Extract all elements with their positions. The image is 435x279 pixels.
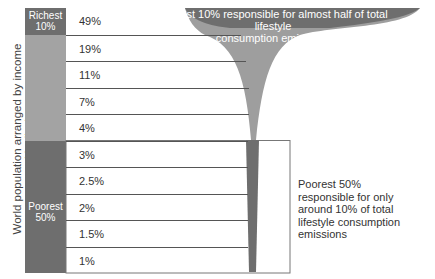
decile-row: 3% [66,141,248,168]
decile-row: 1% [66,247,248,274]
decile-row: 4% [66,114,249,141]
decile-row: 1.5% [66,220,248,247]
poorest-annotation: Poorest 50% responsible for only around … [298,178,418,241]
deciles-table: 49% 19% 11% 7% 4% 3% 2.5% 2% 1.5% 1% [66,8,296,273]
richest-annotation: Richest 10% responsible for almost half … [153,8,393,44]
decile-row: 11% [66,61,246,88]
decile-row: 2.5% [66,167,248,194]
decile-row: 7% [66,88,249,115]
decile-row: 2% [66,194,248,221]
